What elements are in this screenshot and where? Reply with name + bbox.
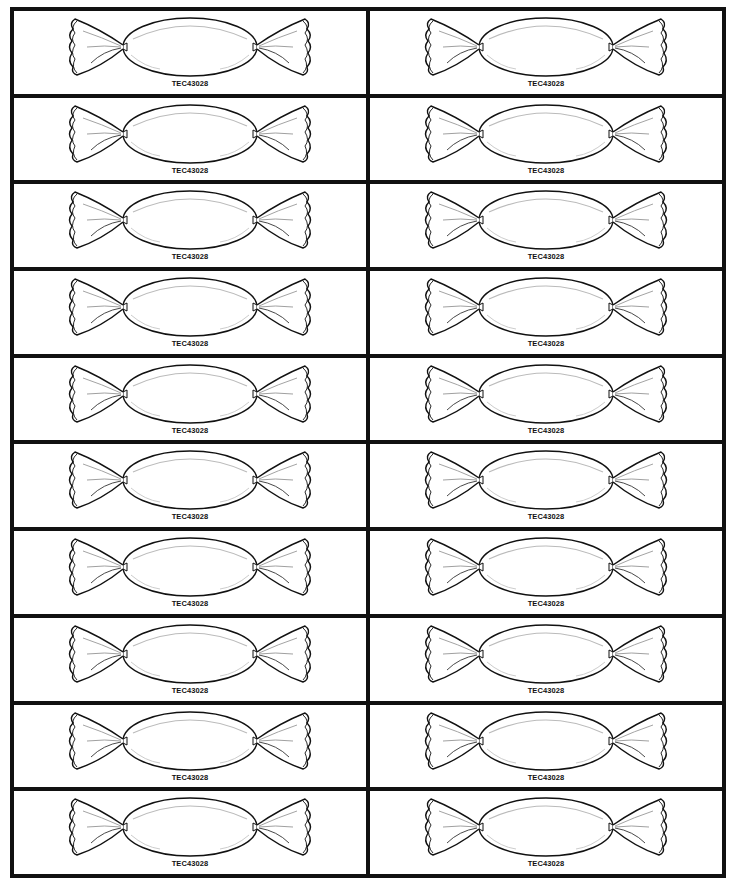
label-cell: TEC43028 bbox=[370, 531, 722, 614]
product-code-label: TEC43028 bbox=[528, 252, 565, 261]
product-code-label: TEC43028 bbox=[172, 599, 209, 608]
candy-wrapper-icon bbox=[421, 709, 671, 773]
label-cell: TEC43028 bbox=[370, 791, 722, 874]
label-cell: TEC43028 bbox=[14, 618, 366, 701]
label-cell: TEC43028 bbox=[370, 184, 722, 267]
label-cell: TEC43028 bbox=[14, 444, 366, 527]
product-code-label: TEC43028 bbox=[172, 166, 209, 175]
label-cell: TEC43028 bbox=[370, 271, 722, 354]
product-code-label: TEC43028 bbox=[172, 512, 209, 521]
product-code-label: TEC43028 bbox=[172, 79, 209, 88]
candy-wrapper-icon bbox=[65, 535, 315, 599]
label-cell: TEC43028 bbox=[370, 98, 722, 181]
product-code-label: TEC43028 bbox=[528, 166, 565, 175]
candy-wrapper-icon bbox=[65, 102, 315, 166]
product-code-label: TEC43028 bbox=[172, 686, 209, 695]
label-cell: TEC43028 bbox=[14, 531, 366, 614]
label-cell: TEC43028 bbox=[370, 11, 722, 94]
label-cell: TEC43028 bbox=[14, 705, 366, 788]
label-cell: TEC43028 bbox=[14, 271, 366, 354]
label-cell: TEC43028 bbox=[370, 705, 722, 788]
product-code-label: TEC43028 bbox=[528, 773, 565, 782]
candy-wrapper-icon bbox=[65, 448, 315, 512]
product-code-label: TEC43028 bbox=[528, 339, 565, 348]
product-code-label: TEC43028 bbox=[172, 426, 209, 435]
candy-wrapper-icon bbox=[421, 362, 671, 426]
label-cell: TEC43028 bbox=[14, 98, 366, 181]
candy-wrapper-icon bbox=[421, 448, 671, 512]
product-code-label: TEC43028 bbox=[172, 339, 209, 348]
product-code-label: TEC43028 bbox=[528, 599, 565, 608]
candy-wrapper-icon bbox=[65, 188, 315, 252]
candy-wrapper-icon bbox=[421, 188, 671, 252]
label-sheet: TEC43028 TEC43028 bbox=[10, 7, 726, 878]
product-code-label: TEC43028 bbox=[172, 252, 209, 261]
label-cell: TEC43028 bbox=[14, 11, 366, 94]
candy-wrapper-icon bbox=[421, 535, 671, 599]
candy-wrapper-icon bbox=[65, 362, 315, 426]
product-code-label: TEC43028 bbox=[172, 773, 209, 782]
candy-wrapper-icon bbox=[421, 275, 671, 339]
candy-wrapper-icon bbox=[65, 795, 315, 859]
product-code-label: TEC43028 bbox=[528, 426, 565, 435]
label-cell: TEC43028 bbox=[370, 444, 722, 527]
candy-wrapper-icon bbox=[421, 102, 671, 166]
candy-wrapper-icon bbox=[421, 622, 671, 686]
label-cell: TEC43028 bbox=[14, 791, 366, 874]
product-code-label: TEC43028 bbox=[528, 859, 565, 868]
candy-wrapper-icon bbox=[65, 275, 315, 339]
product-code-label: TEC43028 bbox=[528, 79, 565, 88]
candy-wrapper-icon bbox=[65, 622, 315, 686]
product-code-label: TEC43028 bbox=[528, 512, 565, 521]
product-code-label: TEC43028 bbox=[528, 686, 565, 695]
candy-wrapper-icon bbox=[421, 795, 671, 859]
label-cell: TEC43028 bbox=[14, 358, 366, 441]
label-cell: TEC43028 bbox=[14, 184, 366, 267]
candy-wrapper-icon bbox=[421, 15, 671, 79]
candy-wrapper-icon bbox=[65, 15, 315, 79]
product-code-label: TEC43028 bbox=[172, 859, 209, 868]
label-cell: TEC43028 bbox=[370, 618, 722, 701]
candy-wrapper-icon bbox=[65, 709, 315, 773]
label-cell: TEC43028 bbox=[370, 358, 722, 441]
